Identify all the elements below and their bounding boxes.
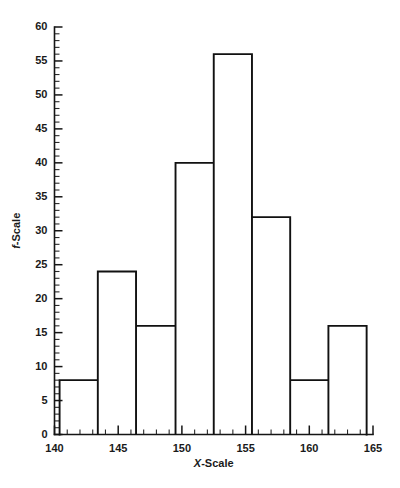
y-tick-label: 20: [35, 292, 47, 304]
y-tick-label: 0: [41, 428, 47, 440]
x-axis-title: X-Scale: [193, 457, 234, 469]
y-tick-label: 15: [35, 326, 47, 338]
histogram-chart-svg: 051015202530354045505560 140145150155160…: [0, 0, 400, 488]
histogram-figure: 051015202530354045505560 140145150155160…: [0, 0, 400, 488]
y-tick-label: 60: [35, 20, 47, 32]
y-tick-label: 45: [35, 122, 47, 134]
y-tick-label: 55: [35, 54, 47, 66]
y-tick-label: 40: [35, 156, 47, 168]
y-tick-label: 30: [35, 224, 47, 236]
y-axis-title: f-Scale: [10, 213, 22, 249]
y-tick-label: 10: [35, 360, 47, 372]
y-tick-label: 50: [35, 88, 47, 100]
x-tick-label: 150: [173, 442, 191, 454]
y-tick-label: 25: [35, 258, 47, 270]
x-tick-label: 155: [236, 442, 254, 454]
y-tick-label: 35: [35, 190, 47, 202]
x-tick-label: 145: [109, 442, 127, 454]
x-tick-label: 165: [364, 442, 382, 454]
y-tick-label: 5: [41, 394, 47, 406]
x-tick-label: 140: [45, 442, 63, 454]
x-tick-label: 160: [300, 442, 318, 454]
